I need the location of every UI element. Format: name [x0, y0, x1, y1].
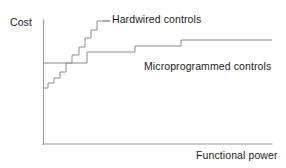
- series-label-microprogrammed: Microprogrammed controls: [144, 60, 271, 72]
- series-label-hardwired: Hardwired controls: [112, 13, 201, 25]
- y-axis-label: Cost: [10, 16, 32, 28]
- chart-figure: Cost Functional power Hardwired controls…: [0, 0, 286, 168]
- x-axis-label: Functional power: [196, 149, 278, 161]
- series-line-hardwired: [43, 21, 110, 88]
- chart-canvas: [0, 0, 286, 168]
